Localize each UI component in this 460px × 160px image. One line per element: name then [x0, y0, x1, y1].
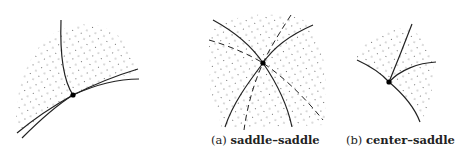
fixed-point [70, 92, 75, 97]
panel-b-center-saddle [357, 24, 436, 122]
panel-a-saddle-saddle [209, 14, 326, 130]
caption-a-text: saddle–saddle [231, 133, 320, 147]
caption-b-text: center–saddle [366, 133, 455, 147]
caption-b-label: (b) [346, 133, 362, 147]
fixed-point [260, 60, 265, 65]
dotted-region [357, 28, 434, 118]
dotted-region [16, 25, 138, 135]
fixed-point [386, 79, 391, 84]
caption-a: (a) saddle–saddle [211, 133, 320, 147]
dotted-region [209, 14, 326, 128]
caption-a-label: (a) [211, 133, 227, 147]
panel-main [16, 20, 139, 138]
caption-b: (b) center–saddle [346, 133, 455, 147]
